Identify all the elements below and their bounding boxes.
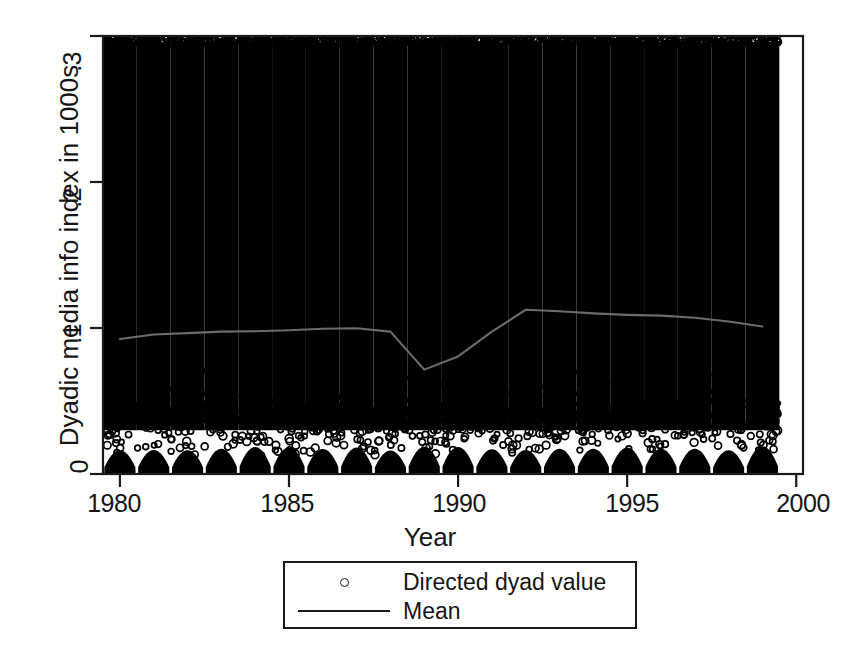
scatter-point (603, 417, 609, 423)
scatter-dense-mass (407, 37, 441, 430)
scatter-point (338, 394, 344, 400)
scatter-point (768, 379, 773, 384)
scatter-point (376, 409, 381, 414)
scatter-point (386, 416, 391, 421)
scatter-point (756, 391, 762, 397)
scatter-point (515, 394, 522, 401)
scatter-point (361, 390, 366, 395)
scatter-dense-mass (374, 37, 408, 430)
scatter-point (455, 407, 460, 412)
legend-marker-circle-icon (285, 578, 403, 587)
scatter-point (657, 417, 662, 422)
scatter-point (770, 413, 775, 418)
scatter-dense-mass (509, 37, 543, 430)
scatter-point (647, 403, 652, 408)
scatter-point (617, 384, 622, 389)
scatter-point (712, 402, 719, 409)
scatter-point (321, 417, 327, 423)
scatter-point (588, 421, 593, 426)
scatter-dense-mass (712, 37, 746, 430)
scatter-point (330, 414, 335, 419)
scatter-point (644, 419, 650, 425)
scatter-point (493, 399, 498, 404)
scatter-point (446, 391, 453, 398)
scatter-point (413, 407, 419, 413)
scatter-point (533, 388, 540, 395)
scatter-point (693, 400, 699, 406)
scatter-dense-mass (543, 37, 577, 430)
scatter-point (729, 392, 734, 397)
legend-label: Mean (403, 598, 461, 625)
scatter-point (421, 392, 427, 398)
scatter-point (542, 417, 548, 423)
scatter-point (771, 422, 776, 427)
scatter-point (658, 398, 663, 403)
scatter-point (358, 411, 363, 416)
scatter-point (508, 391, 513, 396)
scatter-point (693, 413, 698, 418)
scatter-point (635, 401, 641, 407)
scatter-point (596, 407, 602, 413)
scatter-point (575, 391, 581, 397)
scatter-point (691, 407, 697, 413)
scatter-point (771, 392, 776, 397)
scatter-point (575, 369, 580, 374)
scatter-point (379, 417, 384, 422)
scatter-point (704, 408, 709, 413)
scatter-point (560, 406, 565, 411)
scatter-point (700, 419, 705, 424)
scatter-point (330, 383, 336, 389)
scatter-point (324, 389, 328, 393)
scatter-point (477, 382, 484, 389)
scatter-point (715, 386, 720, 391)
legend-entry-directed-dyad-value: Directed dyad value (285, 567, 635, 597)
scatter-point (678, 412, 683, 417)
scatter-point (584, 407, 589, 412)
scatter-point (760, 414, 765, 419)
scatter-point (321, 402, 326, 407)
legend-label: Directed dyad value (403, 569, 606, 596)
scatter-point (493, 409, 498, 414)
scatter-point (388, 390, 394, 396)
scatter-point (744, 421, 749, 426)
scatter-point (491, 405, 496, 410)
scatter-point (681, 420, 687, 426)
scatter-point (724, 398, 730, 404)
scatter-point (381, 407, 388, 414)
scatter-point (565, 406, 571, 412)
scatter-point (637, 410, 644, 417)
scatter-point (652, 398, 657, 403)
scatter-point (623, 406, 628, 411)
scatter-point (393, 386, 398, 391)
scatter-point (364, 414, 370, 420)
scatter-point (663, 385, 668, 390)
scatter-point (686, 399, 692, 405)
scatter-point (554, 407, 560, 413)
scatter-dense-mass (576, 37, 610, 430)
scatter-point (331, 421, 335, 425)
scatter-point (542, 384, 548, 390)
scatter-point (664, 418, 669, 423)
scatter-point (685, 407, 690, 412)
scatter-point (491, 385, 496, 390)
scatter-point (734, 416, 738, 420)
scatter-point (407, 375, 412, 380)
scatter-point (568, 418, 574, 424)
scatter-point (549, 414, 556, 421)
scatter-dense-mass (475, 38, 509, 431)
scatter-point (641, 401, 647, 407)
scatter-point (701, 394, 708, 401)
scatter-point (330, 404, 335, 409)
scatter-point (409, 415, 416, 422)
scatter-point (513, 414, 518, 419)
scatter-point (754, 419, 759, 424)
scatter-point (429, 409, 434, 414)
scatter-point (408, 421, 413, 426)
scatter-point (525, 404, 529, 408)
scatter-point (399, 392, 406, 399)
scatter-point (638, 389, 643, 394)
scatter-point (713, 398, 718, 403)
scatter-point (597, 419, 604, 426)
scatter-point (503, 421, 508, 426)
scatter-point (745, 404, 750, 409)
